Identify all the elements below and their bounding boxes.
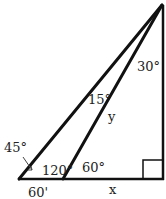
label-acute-angle: 60° (82, 160, 105, 175)
label-obtuse-angle: 120° (42, 163, 73, 178)
inner-segment-y (63, 5, 162, 179)
label-side-y: y (107, 109, 116, 124)
triangle-diagram: 30° 15° y 45° 120° 60° 60' x (0, 0, 166, 199)
label-left-angle: 45° (4, 140, 27, 155)
right-angle-marker (143, 160, 163, 179)
label-base-right: x (109, 182, 117, 197)
label-base-left: 60' (28, 185, 48, 199)
label-inner-angle: 15° (88, 92, 111, 107)
label-apex-angle: 30° (137, 59, 160, 74)
